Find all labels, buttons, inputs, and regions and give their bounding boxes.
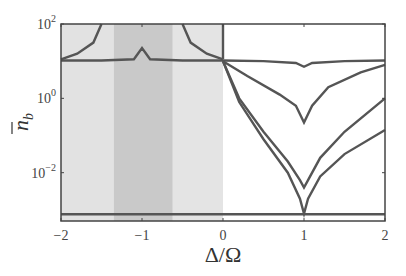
x-tick-label: −2 xyxy=(54,228,69,243)
x-tick-label: 0 xyxy=(220,228,227,243)
x-axis-label: Δ/Ω xyxy=(205,242,242,267)
y-tick-label: 100 xyxy=(37,87,56,106)
shaded-region xyxy=(114,24,173,221)
y-tick-label: 10−2 xyxy=(31,162,56,181)
x-tick-label: 1 xyxy=(301,228,308,243)
chart: −2−1012 10210010−2 Δ/Ω nb xyxy=(0,0,406,276)
shaded-regions xyxy=(61,24,223,221)
y-axis-label: nb xyxy=(8,113,36,134)
x-tick-label: −1 xyxy=(135,228,150,243)
shaded-region xyxy=(173,24,223,221)
y-tick-label: 102 xyxy=(37,13,56,32)
shaded-region xyxy=(61,24,114,221)
curve-lower-deep xyxy=(223,61,385,213)
x-tick-label: 2 xyxy=(382,228,389,243)
